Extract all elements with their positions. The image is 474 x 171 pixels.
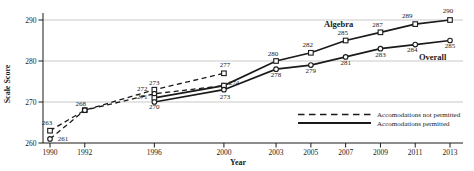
data-label-algebra-1996: 273 [149,79,160,87]
series-annotation-overall: Overall [419,52,447,62]
data-label-overall-2011: 284 [407,46,418,54]
data-point-marker-circle [82,108,87,113]
y-axis-title: Scale Score [3,64,12,103]
data-label-algebra-2003: 280 [268,50,279,58]
x-tick-label-1990: 1990 [43,148,58,157]
line-chart-figure: 2602702802901990199219962000200320052007… [0,0,474,171]
data-label-algebra-1996: 271 [137,93,148,101]
data-label-algebra-2000: 277 [220,61,231,69]
x-tick-label-2013: 2013 [443,148,458,157]
data-label-algebra-2013: 290 [443,7,454,15]
x-tick-label-2003: 2003 [269,148,284,157]
data-label-algebra-2005: 282 [303,41,314,49]
data-label-overall-1996: 272 [137,85,148,93]
x-tick-label-2009: 2009 [373,148,388,157]
data-point-marker-square [222,71,227,76]
data-label-overall-2009: 283 [375,51,386,59]
data-point-marker-square [413,22,418,27]
data-label-overall-2005: 279 [306,67,317,75]
data-point-marker-square [309,51,314,56]
data-label-algebra-2007: 285 [337,29,348,37]
y-tick-label-270: 270 [25,98,37,107]
series-line-3 [154,41,450,103]
data-point-marker-square [448,18,453,23]
x-tick-label-2011: 2011 [408,148,423,157]
data-label-overall-1990: 261 [58,135,69,143]
chart-canvas: 2602702802901990199219962000200320052007… [0,0,474,171]
legend-label-solid: Accomodations permitted [377,120,450,128]
legend-label-dashed: Accomodations not permitted [377,111,461,119]
series-annotation-algebra: Algebra [324,19,354,29]
x-axis-title: Year [230,158,246,167]
data-label-algebra-2000: 274 [229,79,240,87]
data-label-algebra-1992: 268 [76,100,87,108]
data-label-algebra-2011: 289 [402,12,413,20]
data-label-algebra-1990: 263 [42,119,53,127]
y-tick-label-260: 260 [25,139,37,148]
x-tick-label-2007: 2007 [338,148,353,157]
data-point-marker-square [274,59,279,64]
data-point-marker-square [343,38,348,43]
x-tick-label-2000: 2000 [216,148,231,157]
data-label-overall-2007: 281 [340,59,351,67]
data-label-overall-2003: 278 [271,71,282,79]
data-label-overall-1996: 270 [149,103,160,111]
data-point-marker-circle [222,87,227,92]
data-point-marker-square [378,30,383,35]
y-tick-label-280: 280 [25,57,37,66]
data-label-overall-2013: 285 [445,42,456,50]
data-point-marker-circle [48,137,53,142]
data-label-overall-2000: 273 [220,93,231,101]
data-label-algebra-2009: 287 [372,21,383,29]
x-tick-label-1996: 1996 [147,148,162,157]
x-tick-label-2005: 2005 [303,148,318,157]
data-point-marker-square [48,128,53,133]
y-tick-label-290: 290 [25,16,37,25]
series-line-2 [154,20,450,98]
x-tick-label-1992: 1992 [77,148,92,157]
